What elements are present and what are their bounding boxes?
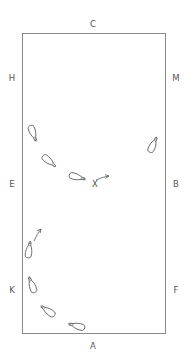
horse-icon-3 <box>68 172 86 183</box>
horse-icon-5 <box>25 241 34 259</box>
horse-icon-8 <box>67 321 85 332</box>
direction-arrow-icon-x <box>96 176 109 180</box>
exercise-overlay <box>0 0 187 362</box>
horse-icon-4 <box>147 136 160 154</box>
horse-icon-7 <box>39 303 57 318</box>
horse-icon-6 <box>26 275 38 293</box>
direction-arrow-icon-up <box>34 229 41 241</box>
horse-icon-2 <box>41 153 58 169</box>
horse-icon-1 <box>27 124 39 142</box>
